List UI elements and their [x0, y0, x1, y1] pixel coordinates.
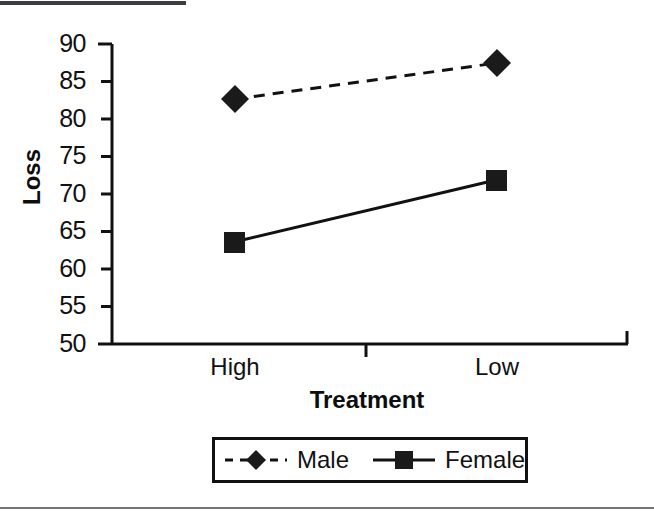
y-tick-label: 50: [34, 331, 86, 356]
series-line-female: [234, 180, 496, 242]
legend-label-male: Male: [297, 448, 349, 472]
legend-entry-female[interactable]: Female: [373, 440, 525, 480]
y-axis-title: Loss: [19, 129, 45, 225]
interaction-plot-figure: 90 85 80 75 70 65 60 55 50 High Low Trea…: [0, 0, 654, 517]
x-axis-title: Treatment: [197, 387, 537, 413]
legend-swatch-female: [373, 447, 435, 473]
legend-symbol-female: [373, 447, 435, 473]
diamond-marker-icon: [483, 49, 511, 77]
x-tick-label-high: High: [165, 355, 305, 379]
square-marker-icon: [486, 170, 507, 191]
y-axis-ticks: [98, 44, 112, 344]
y-tick-label: 90: [34, 31, 86, 56]
x-tick-label-low: Low: [427, 355, 567, 379]
square-marker-icon: [395, 451, 413, 469]
scan-artifact-bottom-rule: [0, 507, 654, 509]
legend-entry-male[interactable]: Male: [225, 440, 349, 480]
legend-swatch-male: [225, 447, 287, 473]
legend-symbol-male: [225, 447, 287, 473]
diamond-marker-icon: [246, 450, 266, 470]
legend-label-female: Female: [445, 448, 525, 472]
series-line-male: [235, 63, 497, 99]
y-tick-label: 60: [34, 256, 86, 281]
y-tick-label: 55: [34, 293, 86, 318]
diamond-marker-icon: [221, 85, 249, 113]
square-marker-icon: [224, 232, 245, 253]
series-markers-male: [221, 49, 511, 113]
chart-legend: Male Female: [212, 437, 528, 483]
y-tick-label: 85: [34, 68, 86, 93]
y-tick-label: 80: [34, 106, 86, 131]
